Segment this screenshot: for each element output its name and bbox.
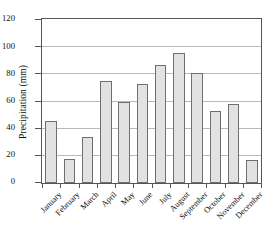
y-tick-label-80: 80 bbox=[0, 69, 15, 78]
x-tick-mark-7 bbox=[170, 184, 171, 188]
x-tick-mark-8 bbox=[188, 184, 189, 188]
y-tick-label-60: 60 bbox=[0, 96, 15, 105]
bar-march bbox=[82, 137, 93, 183]
y-tick-mark-0 bbox=[35, 182, 41, 183]
y-tick-mark-40 bbox=[35, 128, 41, 129]
x-tick-mark-12 bbox=[261, 184, 262, 188]
bar-june bbox=[137, 84, 148, 183]
x-tick-mark-11 bbox=[243, 184, 244, 188]
bar-october bbox=[210, 111, 221, 183]
x-tick-mark-2 bbox=[79, 184, 80, 188]
y-tick-label-40: 40 bbox=[0, 123, 15, 132]
x-tick-mark-3 bbox=[97, 184, 98, 188]
bar-may bbox=[118, 102, 129, 184]
y-axis-title: Precipitation (mm) bbox=[18, 27, 28, 177]
y-tick-label-120: 120 bbox=[0, 14, 15, 23]
x-tick-mark-6 bbox=[152, 184, 153, 188]
y-tick-mark-20 bbox=[35, 155, 41, 156]
y-tick-mark-100 bbox=[35, 46, 41, 47]
bar-series bbox=[42, 19, 261, 183]
bar-august bbox=[173, 53, 184, 183]
bar-july bbox=[155, 65, 166, 183]
bar-november bbox=[228, 104, 239, 183]
y-tick-label-100: 100 bbox=[0, 42, 15, 51]
bar-january bbox=[45, 121, 56, 183]
y-tick-label-0: 0 bbox=[0, 177, 15, 186]
x-tick-mark-5 bbox=[133, 184, 134, 188]
bar-february bbox=[64, 159, 75, 183]
bar-december bbox=[246, 160, 257, 183]
x-tick-mark-10 bbox=[225, 184, 226, 188]
precipitation-bar-chart: Precipitation (mm) 020406080100120 Janua… bbox=[0, 0, 279, 235]
x-tick-mark-9 bbox=[206, 184, 207, 188]
y-tick-label-20: 20 bbox=[0, 150, 15, 159]
x-tick-mark-0 bbox=[42, 184, 43, 188]
bar-september bbox=[191, 73, 202, 183]
y-tick-mark-120 bbox=[35, 19, 41, 20]
y-tick-mark-80 bbox=[35, 73, 41, 74]
x-tick-mark-4 bbox=[115, 184, 116, 188]
x-tick-mark-1 bbox=[60, 184, 61, 188]
y-tick-mark-60 bbox=[35, 101, 41, 102]
bar-april bbox=[100, 81, 111, 183]
